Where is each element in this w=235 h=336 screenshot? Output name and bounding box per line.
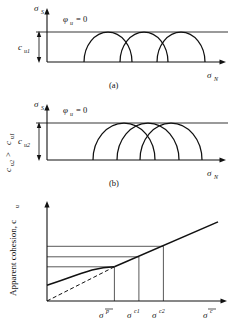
- panel-b-phi-label: φ: [63, 105, 68, 115]
- panel-a-x-arrow: [220, 59, 227, 64]
- chart-y-axis-label-group: Apparent cohesion, c u: [8, 205, 20, 296]
- panel-b-caption: (b): [109, 178, 119, 188]
- panel-a-x-axis-sublabel: N: [213, 76, 219, 82]
- chart-x-axis-label: σ: [203, 310, 208, 320]
- chart-xtick-sigma-c1-base: σ: [127, 310, 132, 320]
- panel-b-cu-arrow-bottom: [37, 155, 41, 161]
- panel-b-side-label-a: c: [3, 168, 13, 172]
- panel-b-x-arrow: [220, 157, 227, 162]
- panel-b-mohr-circle-2: [117, 123, 179, 160]
- panel-b: σ S σ N φ u = 0 c u2 (b) c u2 > c u1: [0, 96, 235, 192]
- panel-b-side-label-b: c: [3, 141, 13, 145]
- panel-b-phi-sublabel: u: [70, 111, 73, 117]
- chart-y-axis-label: Apparent cohesion, c: [8, 220, 18, 296]
- panel-b-side-label-b-sub: u1: [9, 133, 15, 139]
- chart-xtick-sigma-c2: σ c2: [152, 308, 165, 321]
- panel-b-x-axis-label: σ: [207, 168, 212, 178]
- panel-b-y-arrow: [44, 104, 49, 111]
- panel-b-side-label-op: >: [3, 152, 13, 157]
- chart-dashed-extrapolation: [47, 267, 114, 301]
- panel-b-side-label-a-sub: u2: [9, 160, 15, 166]
- panel-a-cu-arrow-bottom: [37, 57, 41, 63]
- chart-y-axis-label-sub: u: [14, 205, 20, 208]
- panel-b-y-axis-label: σ: [34, 99, 39, 109]
- panel-a-phi-label: φ: [63, 14, 68, 24]
- panel-b-mohr-circle-3: [140, 123, 202, 160]
- panel-b-x-axis-sublabel: N: [213, 174, 219, 180]
- chart-xtick-sigma-p-sup: p: [105, 308, 109, 314]
- cohesion-chart: Apparent cohesion, c u σ p σ c1 σ c2 σ c: [0, 192, 235, 336]
- chart-xtick-sigma-p: σ p: [99, 308, 113, 321]
- panel-b-cohesion-label: c: [18, 136, 22, 146]
- panel-a-cohesion-label: c: [18, 42, 22, 52]
- chart-x-axis-label-sup: c: [210, 308, 213, 314]
- panel-a-x-axis-label: σ: [207, 70, 212, 80]
- panel-b-y-axis-sublabel: S: [41, 105, 44, 111]
- panel-b-phi-value: = 0: [76, 105, 87, 115]
- panel-a-phi-value: = 0: [76, 14, 87, 24]
- chart-x-arrow: [221, 298, 228, 303]
- panel-b-side-label: c u2 > c u1: [3, 133, 15, 172]
- panel-a-phi-sublabel: u: [70, 20, 73, 26]
- panel-a: σ S σ N φ u = 0 c u1 (a): [0, 0, 235, 95]
- chart-overconsolidated-curve: [47, 267, 114, 286]
- chart-xtick-sigma-p-base: σ: [99, 310, 104, 320]
- panel-a-y-axis-label: σ: [34, 3, 39, 13]
- chart-xtick-sigma-c2-base: σ: [152, 310, 157, 320]
- panel-a-caption: (a): [109, 80, 119, 90]
- panel-a-y-arrow: [44, 8, 49, 15]
- chart-xtick-sigma-c1-sup: c1: [134, 308, 140, 314]
- figure-container: σ S σ N φ u = 0 c u1 (a) σ S σ N φ u = 0: [0, 0, 235, 336]
- chart-y-arrow: [44, 201, 49, 208]
- chart-x-axis-label-group: σ c: [203, 308, 216, 321]
- chart-xtick-sigma-c2-sup: c2: [159, 308, 165, 314]
- panel-b-mohr-circle-1: [93, 123, 155, 160]
- panel-a-y-axis-sublabel: S: [41, 9, 44, 15]
- chart-xtick-sigma-c1: σ c1: [127, 308, 140, 321]
- panel-a-mohr-circle-1: [84, 32, 132, 62]
- chart-normally-consolidated-line: [114, 222, 218, 267]
- panel-a-cohesion-sublabel: u1: [24, 48, 30, 54]
- panel-b-cohesion-sublabel: u2: [24, 142, 30, 148]
